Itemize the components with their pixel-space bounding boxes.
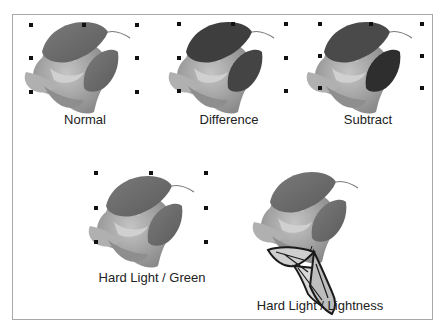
selection-handle[interactable] <box>29 56 33 60</box>
sample-difference[interactable] <box>164 16 294 126</box>
selection-handle[interactable] <box>135 56 139 60</box>
selection-handle[interactable] <box>284 22 288 26</box>
rose-leaf-image <box>20 16 150 106</box>
selection-handle[interactable] <box>204 240 208 244</box>
selection-handle[interactable] <box>177 22 181 26</box>
selection-handle[interactable] <box>369 22 373 26</box>
sample-subtract[interactable] <box>304 16 434 126</box>
selection-handle[interactable] <box>318 86 322 90</box>
selection-handle[interactable] <box>135 90 139 94</box>
selection-handle[interactable] <box>29 90 33 94</box>
sample-hardlight-green[interactable] <box>86 170 216 280</box>
caption-normal: Normal <box>64 112 106 127</box>
caption-hardlight-green: Hard Light / Green <box>99 270 206 285</box>
selection-handle[interactable] <box>94 171 98 175</box>
selection-handle[interactable] <box>318 54 322 58</box>
sample-hardlight-lightness[interactable] <box>252 160 392 310</box>
selection-handle[interactable] <box>204 171 208 175</box>
selection-handle[interactable] <box>318 22 322 26</box>
selection-handle[interactable] <box>135 23 139 27</box>
selection-handle[interactable] <box>149 171 153 175</box>
selection-handle[interactable] <box>231 22 235 26</box>
rose-leaf-image <box>164 16 294 106</box>
rose-leaf-butterfly-image <box>252 160 392 300</box>
caption-difference: Difference <box>199 112 258 127</box>
selection-handle[interactable] <box>94 206 98 210</box>
selection-handle[interactable] <box>204 206 208 210</box>
rose-leaf-image <box>86 170 216 260</box>
selection-handle[interactable] <box>284 89 288 93</box>
selection-handle[interactable] <box>29 23 33 27</box>
rose-leaf-image <box>304 16 434 106</box>
caption-hardlight-lightness: Hard Light / Lightness <box>257 298 383 313</box>
selection-handle[interactable] <box>420 22 424 26</box>
selection-handle[interactable] <box>420 54 424 58</box>
selection-handle[interactable] <box>177 89 181 93</box>
selection-handle[interactable] <box>82 23 86 27</box>
selection-handle[interactable] <box>284 56 288 60</box>
selection-handle[interactable] <box>420 86 424 90</box>
sample-normal[interactable] <box>20 16 150 126</box>
caption-subtract: Subtract <box>344 112 392 127</box>
selection-handle[interactable] <box>177 56 181 60</box>
selection-handle[interactable] <box>94 240 98 244</box>
